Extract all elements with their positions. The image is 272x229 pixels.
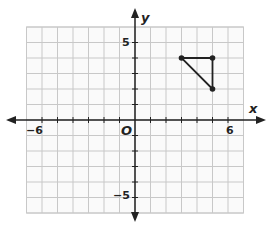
x-tick-label-neg6: −6 bbox=[26, 125, 43, 136]
origin-label: O bbox=[121, 124, 132, 137]
y-tick-label-5: 5 bbox=[122, 37, 130, 48]
y-tick-label-neg5: −5 bbox=[113, 190, 130, 201]
x-tick-label-6: 6 bbox=[226, 125, 234, 136]
x-axis-label: x bbox=[249, 102, 257, 115]
coordinate-plane bbox=[0, 0, 272, 229]
y-axis-label: y bbox=[141, 11, 149, 24]
